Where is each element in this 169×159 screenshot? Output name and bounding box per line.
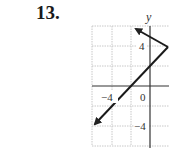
y-axis-label: y xyxy=(145,10,152,24)
tick-x-neg4: −4 xyxy=(101,91,113,103)
tick-y-neg4: −4 xyxy=(134,120,146,132)
tick-y-4: 4 xyxy=(139,40,145,52)
tick-origin: 0 xyxy=(140,91,146,103)
graph: 4 −4 0 −4 y xyxy=(0,0,169,159)
